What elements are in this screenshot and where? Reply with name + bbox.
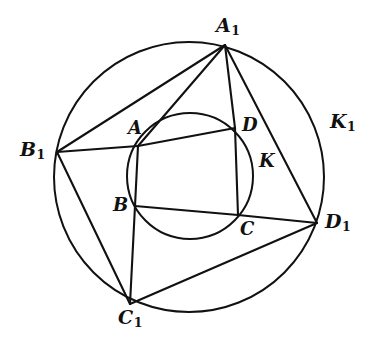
point-label-b1: B1 bbox=[20, 140, 45, 161]
geometry-canvas bbox=[0, 0, 369, 346]
point-label-d1: D1 bbox=[325, 212, 351, 233]
segment-b-c bbox=[135, 206, 238, 215]
point-label-d: D bbox=[242, 116, 258, 134]
point-label-c1: C1 bbox=[118, 308, 142, 329]
point-label-a1: A1 bbox=[216, 16, 240, 37]
outer-circle-k1 bbox=[54, 42, 324, 312]
point-label-d1-sub: 1 bbox=[342, 219, 351, 234]
segment-b1-a bbox=[57, 146, 138, 152]
geometry-figure: A B C D K A1 B1 C1 D1 K1 bbox=[0, 0, 369, 346]
segment-a1-d1 bbox=[225, 45, 317, 223]
point-label-d1-base: D bbox=[325, 210, 341, 232]
circle-label-k1-sub: 1 bbox=[347, 119, 356, 134]
segment-a1-d bbox=[225, 45, 235, 128]
point-label-a1-base: A bbox=[216, 14, 231, 36]
point-label-b1-sub: 1 bbox=[37, 147, 46, 162]
point-label-c: C bbox=[240, 220, 254, 238]
point-label-a1-sub: 1 bbox=[231, 23, 240, 38]
segment-c1-d1 bbox=[130, 223, 317, 304]
segment-b-a bbox=[135, 146, 138, 206]
point-label-c1-base: C bbox=[118, 306, 133, 328]
segment-a-a1 bbox=[138, 45, 225, 146]
circle-label-k1-base: K bbox=[330, 110, 347, 132]
point-label-c1-sub: 1 bbox=[134, 315, 143, 330]
segment-d-c bbox=[235, 128, 238, 215]
circle-label-k: K bbox=[259, 152, 275, 170]
circle-label-k1: K1 bbox=[330, 112, 356, 133]
point-label-b: B bbox=[113, 196, 128, 214]
segment-c1-b bbox=[130, 206, 135, 304]
segment-b1-c1 bbox=[57, 152, 130, 304]
point-label-a: A bbox=[128, 119, 142, 137]
point-label-b1-base: B bbox=[20, 138, 36, 160]
